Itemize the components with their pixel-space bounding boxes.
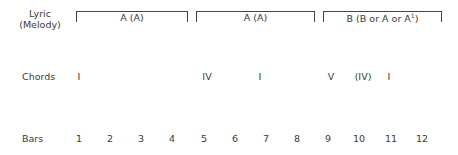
- bar-number: 3: [138, 133, 144, 144]
- bar-number: 5: [201, 133, 207, 144]
- bar-number: 11: [385, 133, 397, 144]
- melody-label: (Melody): [14, 19, 66, 30]
- bar-number: 2: [107, 133, 113, 144]
- section-label-1: A (A): [76, 12, 188, 23]
- chord-symbol: (IV): [355, 71, 372, 82]
- chord-symbol: V: [328, 71, 335, 82]
- section-label-3-main: B (B or A or A: [347, 13, 411, 24]
- chords-row-label: Chords: [22, 71, 55, 82]
- section-label-3-close: ): [415, 13, 419, 24]
- lyric-label: Lyric: [14, 8, 66, 19]
- bar-number: 4: [169, 133, 175, 144]
- bar-number: 12: [416, 133, 428, 144]
- chord-symbol: I: [388, 71, 391, 82]
- lyric-melody-row-label: Lyric (Melody): [14, 8, 66, 30]
- section-label-3: B (B or A or A1): [323, 12, 442, 24]
- bar-number: 1: [76, 133, 82, 144]
- chord-symbol: I: [259, 71, 262, 82]
- chord-symbol: I: [78, 71, 81, 82]
- bar-number: 7: [263, 133, 269, 144]
- bars-row-label: Bars: [22, 133, 43, 144]
- bar-number: 8: [294, 133, 300, 144]
- bar-number: 6: [232, 133, 238, 144]
- section-label-2: A (A): [196, 12, 315, 23]
- bar-number: 9: [325, 133, 331, 144]
- bar-number: 10: [353, 133, 365, 144]
- chord-symbol: IV: [202, 71, 211, 82]
